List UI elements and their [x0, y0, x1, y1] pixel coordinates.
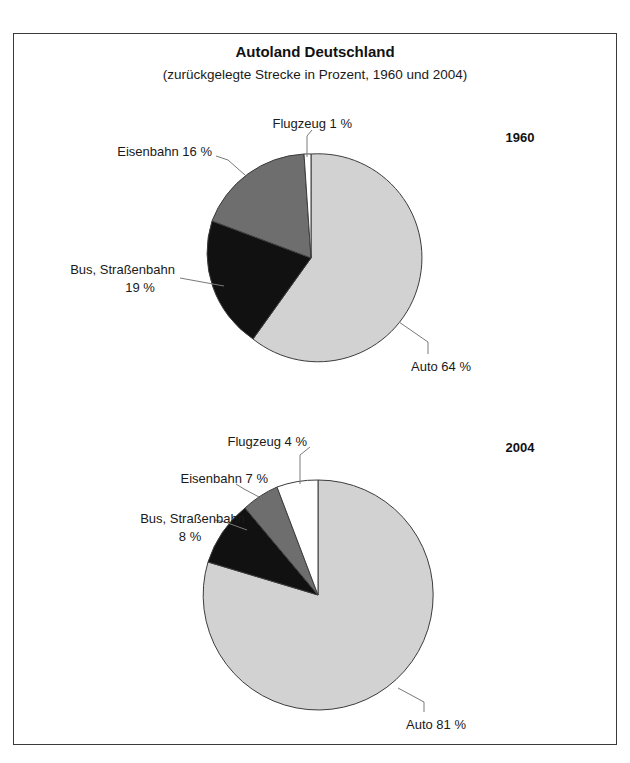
label-bus-line1-1960: Bus, Straßenbahn [70, 262, 175, 277]
label-flugzeug-2004: Flugzeug 4 % [228, 434, 308, 449]
leader-line-auto-1960 [399, 322, 428, 354]
page-subtitle: (zurückgelegte Strecke in Prozent, 1960 … [163, 67, 468, 82]
pie-slices-1960 [207, 154, 422, 362]
year-badge-1960: 1960 [506, 130, 535, 145]
label-eisenbahn-1960: Eisenbahn 16 % [117, 144, 212, 159]
leader-line-eisenbahn-1960 [216, 156, 245, 175]
label-bus-line2-2004: 8 % [179, 529, 202, 544]
leader-line-flugzeug-2004 [300, 447, 310, 484]
label-auto-2004: Auto 81 % [406, 717, 466, 732]
leader-line-flugzeug-1960 [307, 130, 312, 157]
label-auto-1960: Auto 64 % [411, 359, 471, 374]
leader-line-auto-2004 [398, 688, 424, 712]
pie-chart-2004: 2004 Flugzeug 4 % Eisenbahn 7 % Bus, Str… [140, 434, 535, 732]
year-badge-2004: 2004 [506, 440, 536, 455]
label-bus-line2-1960: 19 % [125, 280, 155, 295]
label-bus-line1-2004: Bus, Straßenbahn [140, 511, 245, 526]
label-flugzeug-1960: Flugzeug 1 % [273, 116, 353, 131]
page-title: Autoland Deutschland [235, 43, 394, 60]
pie-chart-1960: 1960 Flugzeug 1 % Eisenbahn 16 % Bus, St… [70, 116, 534, 374]
infographic-canvas: Autoland Deutschland (zurückgelegte Stre… [0, 0, 630, 763]
label-eisenbahn-2004: Eisenbahn 7 % [181, 471, 269, 486]
